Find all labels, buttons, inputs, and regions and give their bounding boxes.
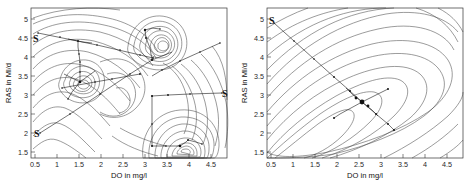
search-step-nodes-left xyxy=(37,28,223,147)
y-tick-0: 1.5 xyxy=(254,148,264,157)
start-marker-right: S xyxy=(222,88,228,99)
y-tick-2: 2.5 xyxy=(254,110,264,119)
x-tick-0: 0.5 xyxy=(30,160,40,169)
left-y-tick-labels: 1.5 2 2.5 3 3.5 4 4.5 5 xyxy=(18,15,28,157)
y-tick-4: 3.5 xyxy=(18,72,28,81)
y-tick-1: 2 xyxy=(260,129,264,138)
x-tick-3: 2 xyxy=(335,160,339,169)
x-tick-5: 3 xyxy=(143,160,147,169)
y-tick-2: 2.5 xyxy=(18,110,28,119)
right-x-axis-title: DO in mg/l xyxy=(347,171,383,180)
contour-lines-left xyxy=(33,8,228,158)
figure-container: 0.5 1 1.5 2 2.5 3 3.5 4 4.5 1.5 2 2.5 3 … xyxy=(0,0,471,191)
start-marker-upper-left: S xyxy=(269,15,275,26)
search-paths-left xyxy=(38,28,222,146)
left-plot-svg: 0.5 1 1.5 2 2.5 3 3.5 4 4.5 1.5 2 2.5 3 … xyxy=(0,0,235,191)
left-x-axis-title: DO in mg/l xyxy=(111,171,147,180)
right-y-tickmarks xyxy=(267,19,271,152)
y-tick-4: 3.5 xyxy=(254,72,264,81)
y-tick-5: 4 xyxy=(24,53,28,62)
left-contour-panel: 0.5 1 1.5 2 2.5 3 3.5 4 4.5 1.5 2 2.5 3 … xyxy=(0,0,235,191)
y-tick-5: 4 xyxy=(260,53,264,62)
right-contour-panel: 0.5 1 1.5 2 2.5 3 3.5 4 4.5 1.5 2 2.5 3 … xyxy=(236,0,471,191)
contour-lines-right xyxy=(267,8,463,158)
x-tick-1: 1 xyxy=(55,160,59,169)
y-tick-3: 3 xyxy=(24,91,28,100)
left-y-axis-title: RAS in Ml/d xyxy=(4,63,13,103)
y-tick-7: 5 xyxy=(24,15,28,24)
right-plot-svg: 0.5 1 1.5 2 2.5 3 3.5 4 4.5 1.5 2 2.5 3 … xyxy=(236,0,471,191)
x-tick-4: 2.5 xyxy=(118,160,128,169)
right-y-tick-labels: 1.5 2 2.5 3 3.5 4 4.5 5 xyxy=(254,15,264,157)
start-marker-upper-left: S xyxy=(33,33,39,44)
y-tick-6: 4.5 xyxy=(18,34,28,43)
x-tick-5: 3 xyxy=(379,160,383,169)
x-tick-2: 1.5 xyxy=(310,160,320,169)
right-y-axis-title: RAS in Ml/d xyxy=(240,63,249,103)
y-tick-3: 3 xyxy=(260,91,264,100)
x-tick-0: 0.5 xyxy=(266,160,276,169)
right-x-tick-labels: 0.5 1 1.5 2 2.5 3 3.5 4 4.5 xyxy=(266,160,452,169)
x-tick-3: 2 xyxy=(99,160,103,169)
x-tick-6: 3.5 xyxy=(398,160,408,169)
x-tick-2: 1.5 xyxy=(74,160,84,169)
x-tick-4: 2.5 xyxy=(354,160,364,169)
y-tick-1: 2 xyxy=(24,129,28,138)
x-tick-6: 3.5 xyxy=(162,160,172,169)
y-tick-0: 1.5 xyxy=(18,148,28,157)
x-tick-8: 4.5 xyxy=(442,160,452,169)
y-tick-6: 4.5 xyxy=(254,34,264,43)
start-marker-lower-left: S xyxy=(34,128,40,139)
x-tick-7: 4 xyxy=(423,160,427,169)
x-tick-8: 4.5 xyxy=(206,160,216,169)
y-tick-7: 5 xyxy=(260,15,264,24)
x-tick-7: 4 xyxy=(187,160,191,169)
left-x-tick-labels: 0.5 1 1.5 2 2.5 3 3.5 4 4.5 xyxy=(30,160,216,169)
x-tick-1: 1 xyxy=(291,160,295,169)
